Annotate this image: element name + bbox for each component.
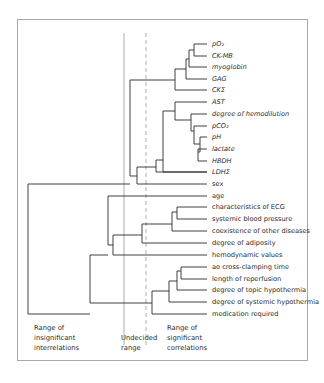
- leaf-label-ck_sigma: CKΣ: [212, 86, 226, 94]
- branch-link: [90, 255, 152, 303]
- dendrogram-branches: [28, 44, 207, 314]
- leaf-label-ph: pH: [211, 133, 221, 141]
- leaf-label-hbdh: HBDH: [212, 157, 232, 165]
- leaf-label-medication: medication required: [212, 310, 279, 318]
- leaf-label-systemic_hypo: degree of systemic hypothermia: [212, 298, 319, 306]
- branch-link: [28, 184, 130, 314]
- branch-link: [152, 291, 207, 314]
- leaf-labels: pO₂CK-MBmyoglobinGAGCKΣASTdegree of hemo…: [211, 40, 319, 318]
- branch-link: [113, 235, 207, 255]
- label-significant-line-1: Range of: [167, 324, 198, 332]
- branch-link: [198, 149, 207, 161]
- branch-link: [175, 69, 207, 90]
- branch-link: [194, 126, 207, 144]
- leaf-label-sex: sex: [212, 180, 223, 188]
- dendrogram: pO₂CK-MBmyoglobinGAGCKΣASTdegree of hemo…: [0, 0, 324, 383]
- branch-link: [108, 196, 207, 245]
- label-undecided-line-2: range: [121, 344, 141, 352]
- branch-link: [191, 114, 207, 131]
- leaf-label-hemodilution: degree of hemodilution: [212, 110, 289, 118]
- leaf-label-reperfusion: length of reperfusion: [212, 275, 281, 283]
- branch-link: [169, 281, 207, 302]
- label-insignificant-line-3: interrelations: [34, 344, 80, 352]
- label-significant-line-2: significant: [167, 334, 202, 342]
- leaf-label-sbp: systemic blood pressure: [212, 215, 292, 223]
- leaf-label-adiposity: degree of adiposity: [212, 239, 276, 247]
- leaf-label-ast: AST: [211, 98, 226, 106]
- label-significant-line-3: correlations: [167, 344, 207, 352]
- leaf-label-age: age: [212, 192, 224, 200]
- label-insignificant-line-2: insignificant: [34, 334, 76, 342]
- leaf-label-myoglobin: myoglobin: [212, 63, 247, 71]
- branch-link: [142, 224, 207, 243]
- leaf-label-ck_mb: CK-MB: [212, 52, 233, 60]
- leaf-label-ldh_sigma: LDHΣ: [212, 168, 231, 176]
- leaf-label-gag: GAG: [212, 75, 227, 83]
- label-undecided-line-1: Undecided: [121, 334, 157, 342]
- leaf-label-ecg: characteristics of ECG: [212, 203, 285, 211]
- branch-link: [177, 207, 207, 219]
- branch-link: [198, 137, 207, 152]
- region-labels: Range of insignificant interrelations Un…: [34, 324, 207, 352]
- leaf-label-topic_hypo: degree of topic hypothermia: [212, 286, 306, 294]
- branch-link: [181, 267, 207, 279]
- branch-link: [194, 44, 207, 56]
- branch-link: [137, 167, 207, 184]
- leaf-label-coexistence: coexistence of other diseases: [212, 227, 311, 235]
- branch-link: [189, 50, 207, 67]
- leaf-label-lactate: lactate: [212, 145, 235, 153]
- label-insignificant-line-1: Range of: [34, 324, 65, 332]
- branch-link: [130, 80, 175, 176]
- leaf-label-po2: pO₂: [211, 40, 224, 48]
- leaf-label-ao_clamp: ao cross-clamping time: [212, 263, 289, 271]
- branch-link: [177, 271, 207, 290]
- leaf-label-pco2: pCO₂: [211, 122, 229, 130]
- leaf-label-hemodynamic: hemodynamic values: [212, 251, 283, 259]
- branch-link: [156, 160, 207, 172]
